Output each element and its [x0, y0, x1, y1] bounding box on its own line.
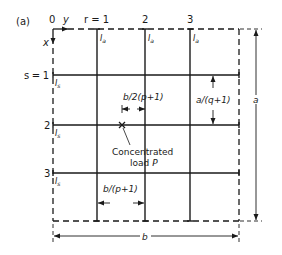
width-label: b: [142, 232, 148, 242]
x-axis-label: x: [42, 37, 49, 48]
half-spacing-label: b/2(p+1): [123, 92, 163, 102]
svg-text:Ia: Ia: [100, 34, 106, 44]
load-label-line1: Concentrated: [112, 147, 173, 157]
half-spacing-dimension: [122, 105, 145, 113]
extension-lines: [53, 29, 262, 244]
column-label-2: 2: [142, 14, 148, 25]
y-axis-label: y: [62, 14, 70, 25]
height-label: a: [253, 95, 259, 105]
row-spacing-label: a/(q+1): [196, 95, 231, 105]
column-label-3: 3: [187, 14, 193, 25]
row-label-1: s = 1: [24, 70, 49, 81]
svg-text:Is: Is: [55, 129, 61, 139]
column-label-1: r = 1: [84, 14, 109, 25]
grillage-diagram: (a) 0 y x: [0, 0, 282, 255]
svg-text:Ia: Ia: [193, 34, 199, 44]
svg-text:Ia: Ia: [148, 34, 154, 44]
origin-label: 0: [49, 14, 55, 25]
svg-text:Is: Is: [55, 177, 61, 187]
row-label-3: 3: [44, 168, 50, 179]
col-spacing-label: b/(p+1): [103, 184, 138, 194]
panel-label: (a): [16, 16, 30, 27]
row-label-2: 2: [44, 120, 50, 131]
svg-text:Is: Is: [55, 79, 61, 89]
column-beam-labels: Ia Ia Ia: [100, 34, 199, 44]
row-beam-labels: Is Is Is: [55, 79, 61, 187]
load-label-line2: load P: [130, 158, 158, 168]
